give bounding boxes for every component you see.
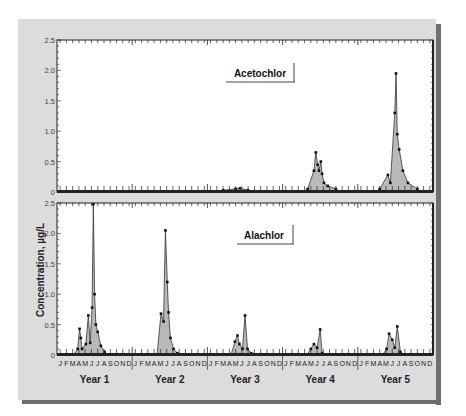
y-tick-label: 0 <box>51 188 55 197</box>
month-label: J <box>322 360 326 367</box>
month-label: N <box>271 360 276 367</box>
month-label: D <box>127 360 132 367</box>
month-label: S <box>334 360 339 367</box>
month-label: M <box>70 360 76 367</box>
month-label: M <box>233 360 239 367</box>
month-label: J <box>315 360 319 367</box>
month-label: M <box>308 360 314 367</box>
y-tick-label: 2.0 <box>45 66 55 75</box>
month-label: A <box>402 360 407 367</box>
month-label: M <box>383 360 389 367</box>
year-label: Year 5 <box>381 374 411 385</box>
month-label: J <box>171 360 175 367</box>
acetochlor-panel: 00.51.01.52.02.5 <box>45 36 433 197</box>
month-label: J <box>90 360 94 367</box>
month-label: M <box>295 360 301 367</box>
month-label: J <box>165 360 169 367</box>
month-label: M <box>371 360 377 367</box>
y-tick-label: 0.5 <box>45 158 55 167</box>
month-label: M <box>82 360 88 367</box>
month-label: A <box>152 360 157 367</box>
month-label: M <box>157 360 163 367</box>
x-axis: JFMAMJJASONDYear 1JFMAMJJASONDYear 2JFMA… <box>58 356 432 385</box>
month-label: J <box>58 360 62 367</box>
month-label: J <box>284 360 288 367</box>
month-label: O <box>189 360 195 367</box>
y-tick-label: 0.5 <box>45 321 55 330</box>
month-label: A <box>227 360 232 367</box>
month-label: S <box>108 360 113 367</box>
y-tick-label: 1.5 <box>45 260 55 269</box>
month-label: F <box>365 360 369 367</box>
month-label: A <box>327 360 332 367</box>
legend-alachlor: Alachlor <box>237 225 294 244</box>
month-label: F <box>64 360 68 367</box>
month-label: J <box>209 360 213 367</box>
month-label: A <box>102 360 107 367</box>
y-axis-label: Concentration, µg/L <box>35 223 46 317</box>
year-label: Year 4 <box>305 374 335 385</box>
month-label: N <box>346 360 351 367</box>
chart-canvas: 00.51.01.52.02.5 00.51.01.52.02.5 JFMAMJ… <box>0 0 466 416</box>
month-label: A <box>177 360 182 367</box>
y-tick-label: 1.5 <box>45 97 55 106</box>
month-label: S <box>183 360 188 367</box>
month-label: A <box>377 360 382 367</box>
month-label: N <box>421 360 426 367</box>
month-label: O <box>264 360 270 367</box>
month-label: A <box>252 360 257 367</box>
month-label: J <box>391 360 395 367</box>
month-label: F <box>139 360 143 367</box>
y-tick-label: 2.5 <box>45 199 55 208</box>
y-tick-label: 0 <box>51 351 55 360</box>
y-tick-label: 1.0 <box>45 290 55 299</box>
month-label: A <box>302 360 307 367</box>
month-label: M <box>145 360 151 367</box>
month-label: A <box>77 360 82 367</box>
month-label: F <box>290 360 294 367</box>
month-label: D <box>202 360 207 367</box>
y-tick-label: 2.5 <box>45 36 55 45</box>
month-label: M <box>220 360 226 367</box>
month-label: O <box>339 360 345 367</box>
month-label: N <box>120 360 125 367</box>
month-label: J <box>96 360 100 367</box>
legend-acetochlor: Acetochlor <box>226 63 295 82</box>
month-label: S <box>409 360 414 367</box>
y-tick-label: 1.0 <box>45 127 55 136</box>
month-label: D <box>277 360 282 367</box>
month-label: J <box>397 360 401 367</box>
month-label: J <box>134 360 138 367</box>
y-tick-label: 2.0 <box>45 229 55 238</box>
year-label: Year 2 <box>155 374 185 385</box>
month-label: J <box>359 360 363 367</box>
month-label: D <box>427 360 432 367</box>
month-label: N <box>195 360 200 367</box>
month-label: O <box>114 360 120 367</box>
month-label: O <box>415 360 421 367</box>
month-label: F <box>215 360 219 367</box>
year-label: Year 3 <box>230 374 260 385</box>
month-label: D <box>352 360 357 367</box>
alachlor-panel: 00.51.01.52.02.5 <box>45 199 433 360</box>
month-label: S <box>258 360 263 367</box>
legend-label-alachlor: Alachlor <box>244 230 284 241</box>
legend-label-acetochlor: Acetochlor <box>234 68 286 79</box>
year-label: Year 1 <box>80 374 110 385</box>
month-label: J <box>246 360 250 367</box>
month-label: J <box>240 360 244 367</box>
